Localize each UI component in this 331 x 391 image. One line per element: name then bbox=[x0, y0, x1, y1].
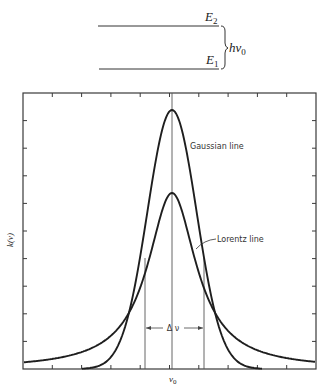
energy-level-diagram: E2 E1 hν0 bbox=[98, 9, 246, 69]
figure: E2 E1 hν0 Δ ν Gaussian line Lorentz line… bbox=[0, 0, 331, 391]
x-center-label: ν0 bbox=[169, 374, 177, 386]
y-axis-label: k(ν) bbox=[5, 233, 15, 247]
gaussian-line-label: Gaussian line bbox=[190, 142, 244, 151]
lorentz-leader-line bbox=[196, 239, 216, 249]
plot-area: Δ ν Gaussian line Lorentz line k(ν) ν0 bbox=[5, 93, 316, 386]
upper-level-label: E2 bbox=[204, 9, 217, 26]
delta-nu-arrow: Δ ν bbox=[146, 324, 203, 333]
brace bbox=[221, 26, 228, 69]
delta-nu-label: Δ ν bbox=[167, 324, 180, 333]
lower-level-label: E1 bbox=[205, 52, 218, 69]
lorentz-curve bbox=[24, 193, 315, 362]
lorentz-line-label: Lorentz line bbox=[217, 235, 264, 244]
photon-energy-label: hν0 bbox=[229, 40, 246, 57]
